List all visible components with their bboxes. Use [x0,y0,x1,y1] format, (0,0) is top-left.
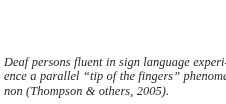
excerpt-line-2: ence a parallel “tip of the fingers” phe… [4,69,223,83]
excerpt-line-1: Deaf persons fluent in sign language exp… [4,55,223,69]
page-canvas: Deaf persons fluent in sign language exp… [0,0,226,104]
excerpt-line-3: non (Thompson & others, 2005). [4,84,223,98]
page-top-whitespace [0,0,226,55]
excerpt-paragraph: Deaf persons fluent in sign language exp… [4,55,223,98]
